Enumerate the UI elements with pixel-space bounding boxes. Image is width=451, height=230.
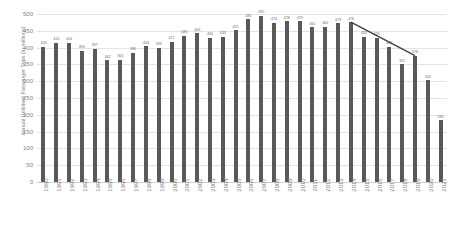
bar-value-label: 473	[335, 18, 341, 22]
bar-value-label: 485	[245, 14, 251, 18]
x-axis-slot: 1996	[114, 183, 127, 229]
x-axis-tick-label: 2011	[312, 179, 318, 192]
bar-slot: 443	[191, 14, 204, 182]
y-axis-tick-label: 150	[23, 129, 33, 135]
bar	[400, 64, 404, 182]
bar-slot: 452	[229, 14, 242, 182]
y-axis-tick-label: 100	[23, 145, 33, 151]
bar-slot: 414	[63, 14, 76, 182]
x-axis-slot: 1993	[75, 183, 88, 229]
bar-value-label: 184	[438, 115, 444, 119]
bar	[285, 21, 289, 182]
bar	[336, 23, 340, 182]
bar-slot: 351	[396, 14, 409, 182]
x-axis-tick-label: 2003	[210, 178, 216, 191]
x-axis-slot: 2015	[357, 183, 370, 229]
x-axis-slot: 2007	[255, 183, 268, 229]
bar-slot: 478	[280, 14, 293, 182]
x-axis-tick-label: 1994	[95, 178, 101, 191]
bar-slot: 364	[114, 14, 127, 182]
x-axis-slot: 2009	[280, 183, 293, 229]
plot-area: 4034144143903973623643844043994174364434…	[37, 14, 447, 182]
bar-slot: 399	[152, 14, 165, 182]
bar	[118, 60, 122, 182]
bar	[272, 23, 276, 182]
x-axis-slot: 1999	[152, 183, 165, 229]
x-axis-tick-label: 2005	[236, 178, 242, 191]
x-axis-tick-label: 1991	[56, 178, 62, 191]
x-axis-tick-label: 1996	[120, 178, 126, 191]
bar	[157, 48, 161, 182]
x-axis-slot: 1991	[50, 183, 63, 229]
bar-value-label: 479	[297, 16, 303, 20]
x-axis-tick-label: 2015	[364, 178, 370, 191]
y-axis-tick-label: 300	[23, 78, 33, 84]
x-axis-tick-label: 2016	[377, 178, 383, 191]
bar-slot: 433	[216, 14, 229, 182]
x-axis-slot: 2006	[242, 183, 255, 229]
bar-value-label: 414	[53, 37, 59, 41]
x-axis-tick-label: 2009	[287, 178, 293, 191]
x-axis-slot: 2000	[165, 183, 178, 229]
bar-slot: 376	[409, 14, 422, 182]
bar-value-label: 474	[271, 17, 277, 21]
chart-container: Annual Unlinked Passenger Trips (in mill…	[0, 0, 451, 230]
bar	[298, 21, 302, 182]
x-axis-slot: 2011	[306, 183, 319, 229]
bar-value-label: 495	[258, 10, 264, 14]
bar-slot: 303	[421, 14, 434, 182]
x-axis-tick-label: 2000	[172, 178, 178, 191]
x-axis-slot: 2012	[319, 183, 332, 229]
x-axis-slot: 2008	[268, 183, 281, 229]
x-axis-tick-label: 1990	[43, 178, 49, 191]
bar	[362, 37, 366, 182]
bar-slot: 417	[165, 14, 178, 182]
x-axis-slot: 2019	[409, 183, 422, 229]
bar-value-label: 397	[92, 43, 98, 47]
x-axis-slot: 2001	[178, 183, 191, 229]
bar	[234, 30, 238, 182]
bar-slot: 479	[293, 14, 306, 182]
x-axis-slot: 1990	[37, 183, 50, 229]
x-axis-tick-label: 2013	[338, 178, 344, 191]
bar-value-label: 403	[386, 41, 392, 45]
x-axis-slot: 1992	[63, 183, 76, 229]
x-axis-slot: 1997	[127, 183, 140, 229]
bar-slot: 461	[306, 14, 319, 182]
x-axis-tick-label: 2012	[325, 178, 331, 191]
bar-value-label: 390	[79, 45, 85, 49]
bar	[54, 43, 58, 182]
bar-slot: 184	[434, 14, 447, 182]
bar-value-label: 429	[374, 32, 380, 36]
bar-value-label: 376	[412, 50, 418, 54]
x-axis-slot: 1998	[140, 183, 153, 229]
x-axis-tick-label: 1998	[146, 178, 152, 191]
bar-value-label: 476	[348, 17, 354, 21]
bar	[67, 43, 71, 182]
x-axis-tick-label: 2014	[351, 178, 357, 191]
bar-slot: 433	[357, 14, 370, 182]
bar	[426, 80, 430, 182]
bar-value-label: 436	[181, 30, 187, 34]
bar	[375, 38, 379, 182]
bar-value-label: 430	[207, 32, 213, 36]
bar-slot: 485	[242, 14, 255, 182]
bar-slot: 430	[204, 14, 217, 182]
bar-value-label: 384	[130, 47, 136, 51]
bar	[323, 27, 327, 182]
bar-value-label: 417	[169, 36, 175, 40]
x-axis-tick-label: 1997	[133, 178, 139, 191]
bar-value-label: 414	[66, 37, 72, 41]
bar	[221, 37, 225, 182]
y-axis-tick-label: 50	[26, 162, 33, 168]
bar-value-label: 433	[220, 31, 226, 35]
x-axis-slot: 2010	[293, 183, 306, 229]
y-axis-tick-label: 0	[30, 179, 33, 185]
bar	[170, 42, 174, 182]
x-axis-slot: 1995	[101, 183, 114, 229]
x-axis-slot: 2016	[370, 183, 383, 229]
y-axis-tick-label: 450	[23, 28, 33, 34]
x-axis-tick-label: 2002	[197, 178, 203, 191]
bar	[413, 56, 417, 182]
x-axis-slot: 2005	[229, 183, 242, 229]
